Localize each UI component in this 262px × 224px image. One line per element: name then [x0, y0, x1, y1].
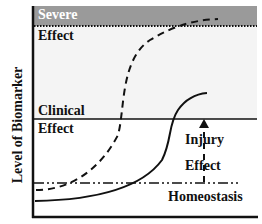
clinical-effect-label: Effect — [38, 122, 74, 136]
clinical-label: Clinical — [38, 104, 85, 118]
severe-label: Severe — [38, 8, 77, 22]
severe-effect-label: Effect — [38, 29, 74, 43]
homeostasis-label: Homeostasis — [168, 190, 243, 204]
y-axis-label: Level of Biomarker — [10, 55, 26, 195]
injury-label: Injury — [185, 133, 224, 147]
injury-effect-label: Effect — [185, 159, 221, 173]
injury-arrow-head-icon — [199, 119, 209, 128]
